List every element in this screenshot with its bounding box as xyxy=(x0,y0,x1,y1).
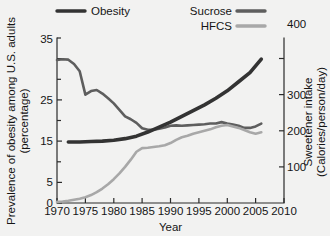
xtick-label-1980: 1980 xyxy=(101,205,127,217)
y-axis-title-line2: (percentage) xyxy=(18,88,30,153)
x-axis-tick-labels: 1970 1975 1980 1985 1990 1995 2000 2005 … xyxy=(44,205,297,217)
y2-axis-title-line1: Sweetener intake xyxy=(302,78,314,167)
left-axis-ticks xyxy=(57,38,62,203)
y2-axis-title: Sweetener intake (Calories/person/day) xyxy=(302,67,327,177)
xtick-label-1995: 1995 xyxy=(186,205,212,217)
xtick-label-1985: 1985 xyxy=(129,205,155,217)
xtick-label-2005: 2005 xyxy=(243,205,269,217)
xtick-label-1990: 1990 xyxy=(158,205,184,217)
xtick-label-1975: 1975 xyxy=(73,205,99,217)
series-group xyxy=(57,59,261,202)
left-axis-tick-labels: 0 5 15 25 35 xyxy=(40,33,53,210)
xtick-label-1970: 1970 xyxy=(44,205,70,217)
y2-axis-title-line2: (Calories/person/day) xyxy=(315,67,327,177)
ytick-label-5: 5 xyxy=(47,176,53,188)
legend-label-sucrose: Sucrose xyxy=(190,5,232,17)
series-path-sucrose xyxy=(57,59,261,129)
y-axis-title-line1: Prevalence of obesity among U.S. adults xyxy=(5,17,17,225)
y-axis-title: Prevalence of obesity among U.S. adults … xyxy=(5,17,30,225)
xtick-label-2010: 2010 xyxy=(271,205,297,217)
series-path-hfcs xyxy=(57,125,261,202)
ytick-label-35: 35 xyxy=(40,33,53,45)
chart-svg: 0 5 15 25 35 Prevalence of obesity among… xyxy=(0,0,330,236)
legend: Obesity Sucrose HFCS xyxy=(57,5,265,32)
chart-figure: 0 5 15 25 35 Prevalence of obesity among… xyxy=(0,0,330,236)
ytick-label-15: 15 xyxy=(40,135,53,147)
legend-label-hfcs: HFCS xyxy=(201,20,233,32)
x-axis-ticks xyxy=(57,198,284,203)
xtick-label-2000: 2000 xyxy=(215,205,241,217)
y2tick-label-400: 400 xyxy=(287,18,306,30)
ytick-label-25: 25 xyxy=(40,94,53,106)
series-path-obesity xyxy=(68,59,261,142)
x-axis-title: Year xyxy=(159,221,182,233)
right-axis-ticks xyxy=(279,59,284,167)
legend-label-obesity: Obesity xyxy=(91,5,130,17)
